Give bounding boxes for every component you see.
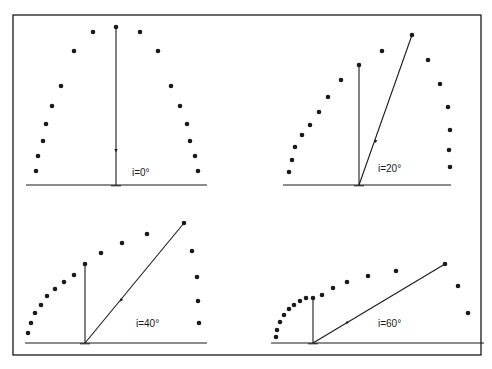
intensity-dot xyxy=(274,335,279,340)
intensity-dot xyxy=(83,262,88,267)
intensity-dot xyxy=(193,154,198,159)
intensity-dot xyxy=(298,299,303,304)
incident-ray xyxy=(85,223,184,343)
intensity-dot xyxy=(287,307,292,312)
intensity-dot xyxy=(293,145,298,150)
intensity-dot xyxy=(26,331,31,336)
intensity-dot xyxy=(196,169,201,174)
intensity-dot xyxy=(91,30,96,35)
intensity-dot xyxy=(169,84,174,89)
intensity-dot xyxy=(72,273,77,278)
intensity-dot xyxy=(443,262,448,267)
intensity-dot xyxy=(53,287,58,292)
intensity-dot xyxy=(62,280,67,285)
intensity-dot xyxy=(447,148,452,153)
intensity-dot xyxy=(466,311,471,316)
panels-group: i=0°i=20°i=40°i=60° xyxy=(25,25,484,344)
intensity-dot xyxy=(282,313,287,318)
intensity-dot xyxy=(156,49,161,54)
intensity-dot xyxy=(178,104,183,109)
intensity-dot xyxy=(114,25,119,30)
intensity-dot xyxy=(41,139,46,144)
intensity-dot xyxy=(290,158,295,163)
intensity-dot xyxy=(145,232,150,237)
intensity-dot xyxy=(308,123,313,128)
intensity-dot xyxy=(320,293,325,298)
intensity-dot xyxy=(326,95,331,100)
intensity-dot xyxy=(380,49,385,54)
intensity-dot xyxy=(331,286,336,291)
intensity-dot xyxy=(304,296,309,301)
intensity-dot xyxy=(275,328,280,333)
intensity-dot xyxy=(72,49,77,54)
intensity-dot xyxy=(410,33,415,38)
intensity-dot xyxy=(339,78,344,83)
incident-ray xyxy=(313,264,445,343)
incidence-angle-label: i=60° xyxy=(378,318,401,329)
incidence-angle-label: i=40° xyxy=(136,318,159,329)
arrowhead-icon xyxy=(114,149,117,153)
intensity-dot xyxy=(59,84,64,89)
intensity-dot xyxy=(195,275,200,280)
intensity-dot xyxy=(34,169,39,174)
intensity-dot xyxy=(278,320,283,325)
intensity-dot xyxy=(45,294,50,299)
intensity-dot xyxy=(456,284,461,289)
intensity-dot xyxy=(345,280,350,285)
intensity-dot xyxy=(287,170,292,175)
intensity-dot xyxy=(188,139,193,144)
intensity-dot xyxy=(50,104,55,109)
intensity-dot xyxy=(185,122,190,127)
intensity-dot xyxy=(446,105,451,110)
intensity-dot xyxy=(29,321,34,326)
intensity-dot xyxy=(39,303,44,308)
intensity-dot xyxy=(196,299,201,304)
intensity-dot xyxy=(366,274,371,279)
intensity-dot xyxy=(190,249,195,254)
intensity-dot xyxy=(33,311,38,316)
incidence-angle-label: i=20° xyxy=(378,163,401,174)
incidence-angle-label: i=0° xyxy=(132,167,150,178)
intensity-dot xyxy=(36,154,41,159)
intensity-dot xyxy=(448,165,453,170)
intensity-dot xyxy=(311,296,316,301)
intensity-dot xyxy=(99,251,104,256)
intensity-dot xyxy=(182,221,187,226)
scattering-diagram-figure: i=0°i=20°i=40°i=60° xyxy=(0,0,492,369)
intensity-dot xyxy=(317,110,322,115)
arrowhead-icon xyxy=(374,139,377,143)
intensity-dot xyxy=(44,122,49,127)
figure-canvas: i=0°i=20°i=40°i=60° xyxy=(0,0,492,369)
intensity-dot xyxy=(448,128,453,133)
intensity-dot xyxy=(438,82,443,87)
intensity-dot xyxy=(292,303,297,308)
panel-panel-0: i=0° xyxy=(26,25,207,186)
panel-panel-60: i=60° xyxy=(271,262,484,344)
intensity-dot xyxy=(197,321,202,326)
intensity-dot xyxy=(394,269,399,274)
intensity-dot xyxy=(138,30,143,35)
intensity-dot xyxy=(426,58,431,63)
panel-panel-40: i=40° xyxy=(25,221,207,344)
intensity-dot xyxy=(120,241,125,246)
panel-panel-20: i=20° xyxy=(283,33,452,186)
intensity-dot xyxy=(357,63,362,68)
intensity-dot xyxy=(300,133,305,138)
